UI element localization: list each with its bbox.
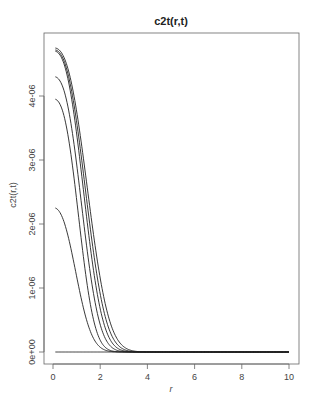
x-tick-label: 8 bbox=[239, 372, 244, 382]
y-axis: 0e+001e-062e-063e-064e-06 bbox=[27, 84, 44, 364]
y-tick-label: 3e-06 bbox=[27, 148, 37, 171]
series-lines bbox=[55, 48, 289, 352]
y-tick-label: 1e-06 bbox=[27, 276, 37, 299]
x-tick-label: 4 bbox=[145, 372, 150, 382]
x-axis: 0246810 bbox=[50, 364, 294, 382]
line-chart: c2t(r,t) 0246810 0e+001e-062e-063e-064e-… bbox=[0, 0, 315, 405]
y-axis-label: c2t(r,t) bbox=[8, 182, 18, 208]
y-tick-label: 4e-06 bbox=[27, 84, 37, 107]
x-axis-label: r bbox=[170, 384, 174, 394]
x-tick-label: 2 bbox=[98, 372, 103, 382]
y-tick-label: 0e+00 bbox=[27, 339, 37, 364]
x-tick-label: 6 bbox=[192, 372, 197, 382]
chart-title: c2t(r,t) bbox=[154, 15, 188, 27]
y-tick-label: 2e-06 bbox=[27, 212, 37, 235]
x-tick-label: 0 bbox=[50, 372, 55, 382]
series-line-t5 bbox=[55, 99, 289, 352]
x-tick-label: 10 bbox=[284, 372, 294, 382]
plot-area-frame bbox=[44, 33, 299, 364]
